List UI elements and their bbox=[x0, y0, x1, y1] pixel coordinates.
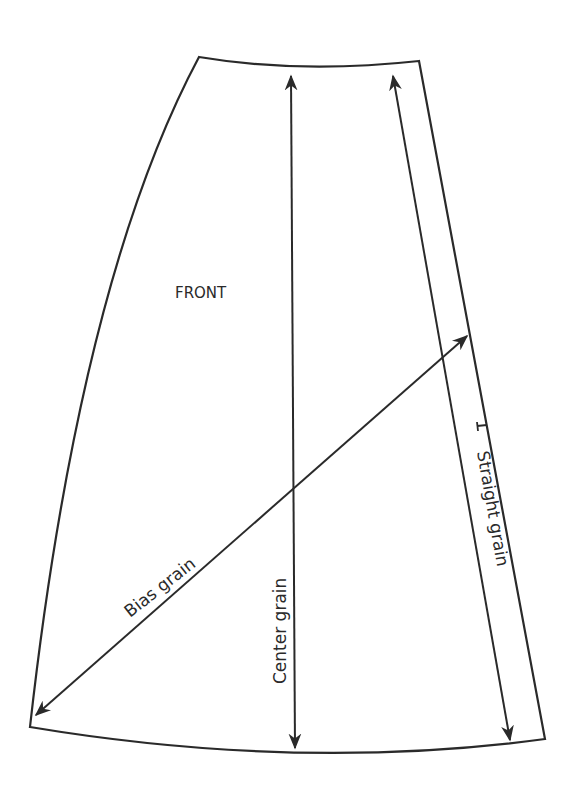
center-grain-label: Center grain bbox=[270, 578, 290, 684]
bias-grain-label: Bias grain bbox=[120, 553, 199, 621]
center-grain-arrow bbox=[291, 76, 295, 748]
piece-label-front: FRONT bbox=[175, 284, 227, 302]
bias-grain-arrow bbox=[36, 336, 467, 715]
skirt-front-pattern-diagram: FRONT Center grain Straight grain Bias g… bbox=[0, 0, 572, 791]
straight-grain-label: Straight grain bbox=[473, 449, 513, 568]
straight-grain-arrow bbox=[393, 76, 510, 740]
